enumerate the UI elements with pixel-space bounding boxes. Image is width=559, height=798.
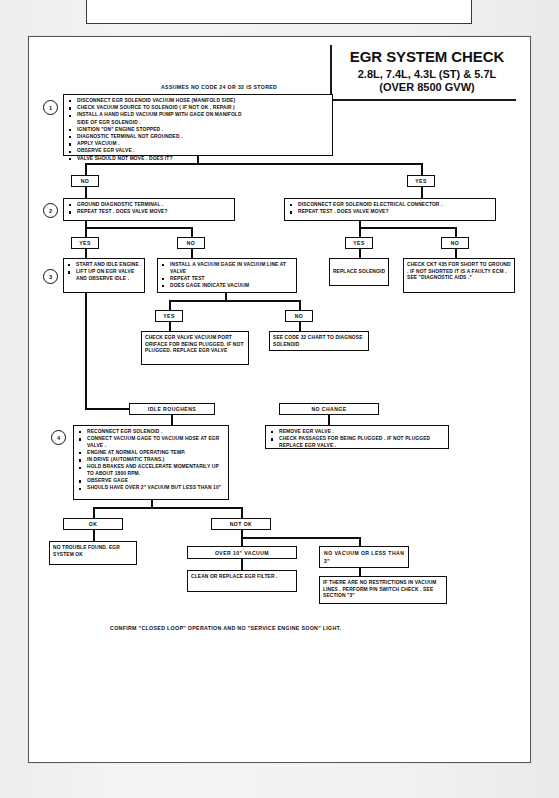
no-change-item-1: REMOVE EGR VALVE . bbox=[270, 429, 445, 436]
connector-step1-left-down bbox=[85, 163, 87, 175]
step4-item-4: IN DRIVE (AUTOMATIC TRANS.) bbox=[78, 457, 225, 464]
connector-step4-split bbox=[93, 507, 243, 509]
check-egr-port-box: CHECK EGR VALVE VACUUM PORT ORIFACE FOR … bbox=[141, 331, 249, 365]
step2-right-box: DISCONNECT EGR SOLENOID ELECTRICAL CONNE… bbox=[284, 198, 496, 221]
step4-item-5: HOLD BRAKES AND ACCELERATE MOMENTARILY U… bbox=[78, 464, 225, 477]
label-yes-2: YES bbox=[71, 237, 99, 249]
label-ok: OK bbox=[63, 518, 123, 530]
step4-item-7: SHOULD HAVE OVER 2" VACUUM BUT LESS THAN… bbox=[78, 485, 225, 492]
connector-step1-right-down bbox=[421, 163, 423, 175]
manual-banner: 1988-90 LIGHT AND MEDIUM TRUCK AND VAN bbox=[86, 0, 472, 24]
step1-box: DISCONNECT EGR SOLENOID VACUUM HOSE (MAN… bbox=[63, 94, 333, 156]
step3-mid-item-3: DOES GAGE INDICATE VACUUM bbox=[161, 283, 294, 290]
label-not-ok: NOT OK bbox=[211, 518, 271, 530]
connector-over10-down bbox=[241, 559, 243, 570]
assumption-note: ASSUMES NO CODE 24 OR 32 IS STORED bbox=[161, 84, 277, 90]
footnote: CONFIRM "CLOSED LOOP" OPERATION AND NO "… bbox=[110, 625, 341, 631]
step4-box: RECONNECT EGR SOLENOID . CONNECT VACUUM … bbox=[73, 425, 229, 500]
connector-step3left-right bbox=[85, 408, 131, 410]
step4-item-3: ENGINE AT NORMAL OPERATING TEMP. bbox=[78, 450, 225, 457]
step2-left-box: GROUND DIAGNOSTIC TERMINAL . REPEAT TEST… bbox=[63, 198, 235, 221]
step4-item-6: OBSERVE GAGE bbox=[78, 478, 225, 485]
label-no-4: NO bbox=[285, 310, 313, 322]
label-idle-roughens: IDLE ROUGHENS bbox=[129, 403, 215, 415]
egr-flowchart: EGR SYSTEM CHECK 2.8L, 7.4L, 4.3L (ST) &… bbox=[29, 37, 532, 764]
step2-right-item-1: DISCONNECT EGR SOLENOID ELECTRICAL CONNE… bbox=[289, 202, 492, 209]
step3-mid-box: INSTALL A VACUUM GAGE IN VACUUM LINE AT … bbox=[157, 258, 297, 293]
step-marker-4: 4 bbox=[51, 430, 66, 445]
chart-subtitle-engines: 2.8L, 7.4L, 4.3L (ST) & 5.7L bbox=[340, 68, 514, 81]
no-change-item-2: CHECK PASSAGES FOR BEING PLUGGED . IF NO… bbox=[270, 436, 445, 449]
label-over-10-vacuum: OVER 10" VACUUM bbox=[187, 546, 297, 559]
step3-mid-item-2: REPEAT TEST bbox=[161, 276, 294, 283]
step4-item-2: CONNECT VACUUM GAGE TO VACUUM HOSE AT EG… bbox=[78, 436, 225, 449]
connector-step3mid-yes-down bbox=[169, 300, 171, 310]
chart-subtitle-gvw: (OVER 8500 GVW) bbox=[340, 81, 514, 94]
step4-item-1: RECONNECT EGR SOLENOID . bbox=[78, 429, 225, 436]
label-yes-3: YES bbox=[345, 237, 373, 249]
connector-step2l-no-down bbox=[191, 227, 193, 237]
connector-step2r-no-down bbox=[455, 227, 457, 237]
connector-step3mid-no-down bbox=[299, 300, 301, 310]
step1-item-6: DIAGNOSTIC TERMINAL NOT GROUNDED . bbox=[68, 134, 329, 141]
step1-item-3: INSTALL A HAND HELD VACUUM PUMP WITH GAG… bbox=[68, 112, 329, 119]
step3-mid-item-1: INSTALL A VACUUM GAGE IN VACUUM LINE AT … bbox=[161, 262, 294, 275]
chart-sheet: EGR SYSTEM CHECK 2.8L, 7.4L, 4.3L (ST) &… bbox=[28, 36, 531, 763]
label-yes-1: YES bbox=[407, 175, 435, 187]
no-restrictions-box: IF THERE ARE NO RESTRICTIONS IN VACUUM L… bbox=[319, 576, 447, 604]
step1-item-2: CHECK VACUUM SOURCE TO SOLENOID ( IF NOT… bbox=[68, 105, 329, 112]
step-marker-3: 3 bbox=[43, 269, 58, 284]
step2-left-item-2: REPEAT TEST . DOES VALVE MOVE? bbox=[68, 209, 231, 216]
check-ckt435-box: CHECK CKT 435 FOR SHORT TO GROUND . IF N… bbox=[403, 258, 515, 293]
connector-step3left-down bbox=[85, 293, 87, 409]
label-no-2: NO bbox=[177, 237, 205, 249]
step2-right-item-2: REPEAT TEST . DOES VALVE MOVE? bbox=[289, 209, 492, 216]
step3-left-item-1: START AND IDLE ENGINE . bbox=[67, 262, 142, 269]
step2-left-item-1: GROUND DIAGNOSTIC TERMINAL . bbox=[68, 202, 231, 209]
label-no-change: NO CHANGE bbox=[279, 403, 379, 415]
replace-solenoid-box: REPLACE SOLENOID bbox=[329, 258, 389, 286]
connector-notok-split bbox=[241, 537, 361, 539]
step-marker-1: 1 bbox=[43, 100, 58, 115]
label-yes-4: YES bbox=[155, 310, 183, 322]
connector-step2l-split bbox=[85, 227, 193, 229]
connector-ok-down bbox=[93, 530, 95, 541]
connector-step2l-yes-down bbox=[85, 227, 87, 237]
connector-step1-split bbox=[85, 163, 423, 165]
step1-item-7: APPLY VACUUM . bbox=[68, 141, 329, 148]
connector-step4-ok-down bbox=[93, 507, 95, 518]
step-marker-2: 2 bbox=[43, 203, 58, 218]
connector-novac-down bbox=[359, 568, 361, 576]
connector-step4-notok-down bbox=[241, 507, 243, 518]
connector-step2r-yes-down bbox=[359, 227, 361, 237]
label-no-vacuum: NO VACUUM OR LESS THAN 2" bbox=[319, 546, 409, 568]
label-no-1: NO bbox=[71, 175, 99, 187]
step3-left-item-2: LIFT UP ON EGR VALVE AND OBSERVE IDLE . bbox=[67, 269, 142, 282]
step1-item-5: IGNITION "ON" ENGINE STOPPED . bbox=[68, 127, 329, 134]
no-change-box: REMOVE EGR VALVE . CHECK PASSAGES FOR BE… bbox=[265, 425, 449, 449]
step1-item-1: DISCONNECT EGR SOLENOID VACUUM HOSE (MAN… bbox=[68, 98, 329, 105]
no-trouble-box: NO TROUBLE FOUND. EGR SYSTEM OK bbox=[49, 541, 137, 565]
title-block: EGR SYSTEM CHECK 2.8L, 7.4L, 4.3L (ST) &… bbox=[330, 45, 516, 101]
connector-step2r-split bbox=[359, 227, 457, 229]
step3-left-box: START AND IDLE ENGINE . LIFT UP ON EGR V… bbox=[63, 258, 145, 293]
clean-filter-box: CLEAN OR REPLACE EGR FILTER . bbox=[187, 570, 297, 592]
step1-item-4: SIDE OF EGR SOLENOID . bbox=[68, 120, 329, 127]
step1-item-9: VALVE SHOULD NOT MOVE . DOES IT? bbox=[68, 156, 329, 163]
connector-step3mid-split bbox=[169, 300, 301, 302]
step1-item-8: OBSERVE EGR VALVE . bbox=[68, 148, 329, 155]
chart-title: EGR SYSTEM CHECK bbox=[340, 48, 514, 65]
see-code32-box: SEE CODE 32 CHART TO DIAGNOSE SOLENOID bbox=[269, 331, 369, 351]
label-no-3: NO bbox=[441, 237, 469, 249]
